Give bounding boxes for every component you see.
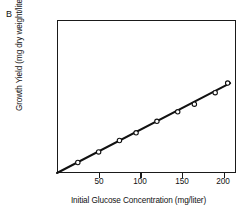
y-axis-title: Growth Yield (mg dry weight/liter) [15,0,24,126]
data-series-layer [57,20,236,173]
data-point [117,138,121,142]
x-tick-label-100: 100 [128,177,152,186]
data-point [225,81,229,85]
data-point [96,150,100,154]
linear-fit-line [57,83,230,173]
data-point [176,110,180,114]
data-point [213,90,217,94]
panel-label: B [6,9,12,19]
figure-panel-b: B Growth Yield (mg dry weight/liter) Ini… [0,0,251,216]
x-tick-label-200: 200 [211,177,235,186]
data-point [134,131,138,135]
data-point [192,102,196,106]
x-tick-label-50: 50 [87,177,111,186]
x-axis-title: Initial Glucose Concentration (mg/liter) [36,196,241,205]
data-point [76,160,80,164]
x-tick-label-150: 150 [170,177,194,186]
data-point [155,119,159,123]
